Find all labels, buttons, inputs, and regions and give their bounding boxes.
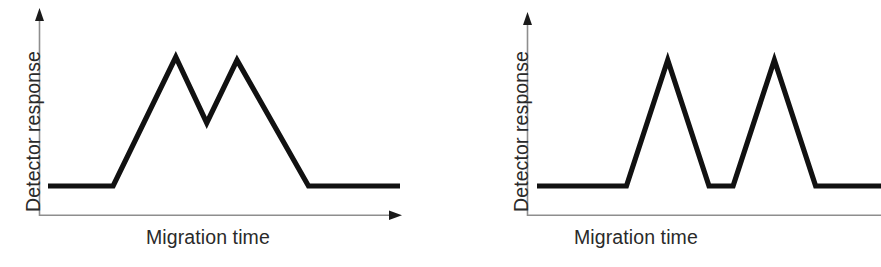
left-x-axis-label: Migration time (146, 226, 270, 249)
left-x-axis-arrowhead-icon (389, 210, 402, 220)
right-y-axis-arrowhead-icon (523, 12, 532, 25)
right-detector-trace (537, 60, 881, 186)
chart-panel-left: Detector response Migration time (0, 0, 440, 267)
left-detector-trace (48, 57, 400, 186)
chart-panel-right: Detector response Migration time (440, 0, 881, 267)
figure-container: Detector response Migration time Detecto… (0, 0, 881, 267)
left-y-axis-arrowhead-icon (35, 8, 44, 21)
right-y-axis-label: Detector response (510, 51, 533, 212)
left-y-axis-label: Detector response (22, 51, 45, 212)
right-x-axis-label: Migration time (574, 226, 698, 249)
